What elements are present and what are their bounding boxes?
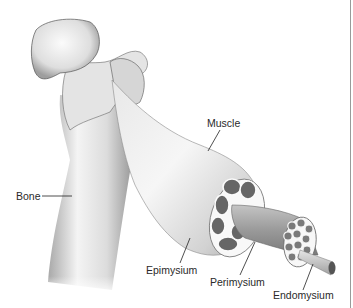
label-muscle: Muscle — [207, 118, 240, 129]
label-bone: Bone — [16, 191, 41, 202]
diagram-illustration — [0, 0, 353, 308]
leader-line-muscle — [208, 130, 220, 151]
muscle-structure-diagram: Muscle Bone Epimysium Perimysium Endomys… — [0, 0, 353, 308]
leader-line-endomysium — [303, 264, 313, 290]
label-endomysium: Endomysium — [273, 290, 334, 301]
label-epimysium: Epimysium — [146, 265, 197, 276]
right-border-line — [350, 0, 351, 308]
label-perimysium: Perimysium — [210, 277, 265, 288]
